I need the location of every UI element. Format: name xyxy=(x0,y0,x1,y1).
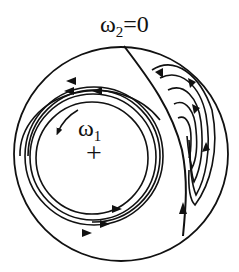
omega2-label: ω2=0 xyxy=(100,11,149,40)
separatrix-line xyxy=(124,46,186,236)
omega1-rotation-arrow xyxy=(58,110,78,132)
loop-1 xyxy=(152,65,215,205)
loop-2 xyxy=(160,75,208,195)
flow-diagram: ω2=0 ω1 + xyxy=(0,0,239,272)
arrow-rv-4 xyxy=(155,68,163,78)
arrow-bottom-3 xyxy=(82,229,92,237)
right-vortex-loops xyxy=(152,65,215,205)
arrow-top-1 xyxy=(66,77,76,85)
center-plus-mark: + xyxy=(86,137,102,168)
